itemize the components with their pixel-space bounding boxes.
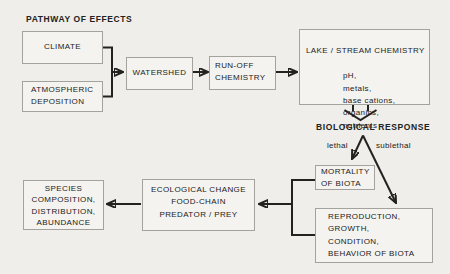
atmospheric-deposition-box: ATMOSPHERIC DEPOSITION	[22, 81, 103, 112]
biological-response-label: BIOLOGICAL RESPONSE	[316, 122, 428, 132]
ecological-change-box: ECOLOGICAL CHANGE FOOD-CHAIN PREDATOR / …	[142, 179, 255, 231]
lake-stream-chemistry-box: LAKE / STREAM CHEMISTRY pH, metals, base…	[299, 29, 430, 105]
reproduction-growth-box: REPRODUCTION, GROWTH, CONDITION, BEHAVIO…	[315, 208, 433, 263]
climate-atmospheric-bracket	[103, 48, 112, 97]
pathway-of-effects-diagram: PATHWAY OF EFFECTS CLIMATE ATMOSPHERIC D…	[0, 0, 450, 274]
climate-box: CLIMATE	[22, 31, 103, 64]
biota-bracket	[292, 180, 315, 235]
species-composition-box: SPECIES COMPOSITION, DISTRIBUTION, ABUND…	[23, 180, 104, 230]
lethal-label: lethal	[327, 141, 348, 150]
runoff-chemistry-box: RUN-OFF CHEMISTRY	[209, 56, 276, 90]
diagram-title: PATHWAY OF EFFECTS	[26, 14, 132, 24]
sublethal-label: sublethal	[376, 141, 411, 150]
watershed-box: WATERSHED	[126, 57, 193, 90]
lake-chemistry-title: LAKE / STREAM CHEMISTRY	[306, 45, 429, 57]
mortality-of-biota-box: MORTALITY OF BIOTA	[315, 165, 375, 190]
